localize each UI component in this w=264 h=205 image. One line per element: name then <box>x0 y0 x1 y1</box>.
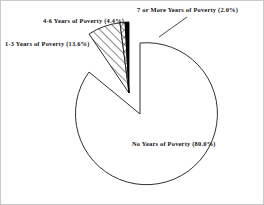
slice-label-seven-or-more: 7 or More Years of Poverty (2.0%) <box>137 6 238 14</box>
slice-label-no-years: No Years of Poverty (80.0%) <box>132 140 216 148</box>
slice-label-one-to-three: 1-3 Years of Poverty (13.6%) <box>5 40 90 48</box>
pie-chart-figure: 7 or More Years of Poverty (2.0%) 4-6 Ye… <box>0 0 264 205</box>
pie-slice-no-years <box>75 43 217 185</box>
pie-chart-graphic <box>1 1 264 205</box>
leader-line-icon <box>159 17 187 37</box>
slice-label-four-to-six: 4-6 Years of Poverty (4.4%) <box>43 17 124 25</box>
